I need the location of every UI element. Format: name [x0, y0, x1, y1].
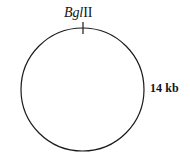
plasmid-backbone-circle	[21, 28, 144, 151]
plasmid-size-label: 14 kb	[150, 82, 179, 94]
enzyme-name-italic: Bgl	[64, 5, 83, 20]
enzyme-name-roman: II	[83, 5, 92, 20]
restriction-site-label-bglii: BglII	[64, 6, 92, 20]
plasmid-map-figure: BglII 14 kb	[0, 0, 190, 163]
